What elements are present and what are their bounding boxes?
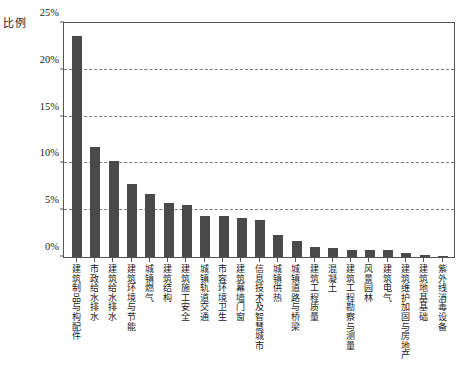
x-axis-label-slot: 建筑维护加固与房地产: [396, 265, 414, 377]
x-axis-tick-slot: [287, 258, 305, 263]
x-axis-tick-slot: [140, 258, 158, 263]
x-axis-label: 城镇轨道交通: [199, 265, 209, 323]
y-axis-tick-label: 10%: [40, 147, 59, 158]
x-axis-label: 建筑结构: [163, 265, 173, 303]
bar-slot: [342, 23, 360, 257]
bar[interactable]: [328, 248, 338, 257]
x-axis-label-slot: 建筑电气: [378, 265, 396, 377]
x-axis-tick-mark: [131, 258, 132, 262]
x-axis-tick-slot: [122, 258, 140, 263]
bar-slot: [251, 23, 269, 257]
x-axis-label: 建筑制品与构配件: [71, 265, 81, 342]
bar[interactable]: [255, 220, 265, 257]
x-axis-label-slot: 建筑工程质量: [305, 265, 323, 377]
bar[interactable]: [145, 194, 155, 257]
x-axis-tick-mark: [185, 258, 186, 262]
x-axis-label-slot: 紫外线消毒设备: [433, 265, 451, 377]
x-axis-label: 紫外线消毒设备: [437, 265, 447, 332]
x-axis-tick-slot: [268, 258, 286, 263]
x-axis-tick-slot: [378, 258, 396, 263]
x-axis-tick-mark: [222, 258, 223, 262]
x-axis-label: 建筑地基基础: [419, 265, 429, 323]
x-axis-tick-mark: [295, 258, 296, 262]
bar[interactable]: [438, 256, 448, 257]
bar-slot: [196, 23, 214, 257]
x-axis-tick-slot: [433, 258, 451, 263]
x-axis-tick-slot: [177, 258, 195, 263]
x-axis-tick-slot: [195, 258, 213, 263]
x-axis-label: 城镇燃气: [144, 265, 154, 303]
bar[interactable]: [127, 184, 137, 257]
bar[interactable]: [383, 250, 393, 257]
x-axis-label: 建筑施工安全: [181, 265, 191, 323]
x-axis-tick-mark: [368, 258, 369, 262]
x-axis-tick-mark: [442, 258, 443, 262]
bar[interactable]: [237, 218, 247, 257]
y-axis-title: 比例: [3, 14, 26, 30]
x-axis-label: 信息技术及智慧城市: [254, 265, 264, 351]
x-axis-labels: 建筑制品与构配件市政给水排水建筑给水排水建筑环境与节能城镇燃气建筑结构建筑施工安…: [63, 265, 455, 377]
x-axis-label-slot: 建筑施工安全: [177, 265, 195, 377]
x-axis-tick-slot: [396, 258, 414, 263]
x-axis-tick-mark: [204, 258, 205, 262]
x-axis-label-slot: 城镇供热: [268, 265, 286, 377]
x-axis-tick-mark: [240, 258, 241, 262]
bar[interactable]: [200, 216, 210, 257]
bar[interactable]: [365, 250, 375, 257]
x-axis-label-slot: 风景园林: [360, 265, 378, 377]
x-axis-label-slot: 市政给水排水: [85, 265, 103, 377]
y-axis-tick-label: 20%: [40, 53, 59, 64]
x-axis-tick-slot: [250, 258, 268, 263]
bar-slot: [68, 23, 86, 257]
bar-slot: [324, 23, 342, 257]
x-axis-tick-mark: [387, 258, 388, 262]
x-axis-tick-mark: [167, 258, 168, 262]
bar-chart: 比例 0%5%10%15%20%25% 建筑制品与构配件市政给水排水建筑给水排水…: [0, 0, 468, 380]
bar[interactable]: [401, 253, 411, 257]
bar[interactable]: [347, 250, 357, 257]
x-axis-label: 建筑环境与节能: [126, 265, 136, 332]
x-axis-label-slot: 建筑结构: [158, 265, 176, 377]
bar[interactable]: [420, 255, 430, 257]
x-axis-label-slot: 城镇轨道交通: [195, 265, 213, 377]
y-axis-tick-label: 25%: [40, 7, 59, 18]
x-axis-ticks: [63, 258, 455, 263]
bar[interactable]: [90, 147, 100, 257]
bar[interactable]: [310, 247, 320, 257]
bar-slot: [306, 23, 324, 257]
x-axis-tick-mark: [76, 258, 77, 262]
x-axis-label: 建筑维护加固与房地产: [400, 265, 410, 361]
bar[interactable]: [72, 36, 82, 257]
x-axis-tick-mark: [405, 258, 406, 262]
x-axis-label-slot: 建筑幕墙门窗: [232, 265, 250, 377]
bar[interactable]: [219, 216, 229, 257]
bar[interactable]: [109, 161, 119, 257]
bar-slot: [269, 23, 287, 257]
bar[interactable]: [273, 235, 283, 257]
bar-slot: [416, 23, 434, 257]
x-axis-tick-slot: [323, 258, 341, 263]
x-axis-label: 市容环境卫生: [218, 265, 228, 323]
bar-slot: [159, 23, 177, 257]
x-axis-tick-slot: [104, 258, 122, 263]
x-axis-label-slot: 建筑制品与构配件: [67, 265, 85, 377]
x-axis-label-slot: 建筑给水排水: [104, 265, 122, 377]
bar-slot: [123, 23, 141, 257]
x-axis-label-slot: 建筑工程勘察与测量: [341, 265, 359, 377]
plot-area: 0%5%10%15%20%25%: [63, 22, 455, 258]
bars-group: [64, 23, 454, 257]
x-axis-tick-slot: [158, 258, 176, 263]
x-axis-tick-slot: [67, 258, 85, 263]
y-axis-tick-label: 15%: [40, 100, 59, 111]
bar[interactable]: [292, 241, 302, 257]
y-axis-tick-label: 5%: [45, 194, 59, 205]
x-axis-tick-mark: [259, 258, 260, 262]
bar[interactable]: [182, 205, 192, 257]
x-axis-label: 城镇供热: [272, 265, 282, 303]
x-axis-tick-mark: [332, 258, 333, 262]
x-axis-label: 混凝土: [327, 265, 337, 294]
bar[interactable]: [164, 203, 174, 257]
bar-slot: [288, 23, 306, 257]
x-axis-tick-slot: [415, 258, 433, 263]
x-axis-label-slot: 混凝土: [323, 265, 341, 377]
